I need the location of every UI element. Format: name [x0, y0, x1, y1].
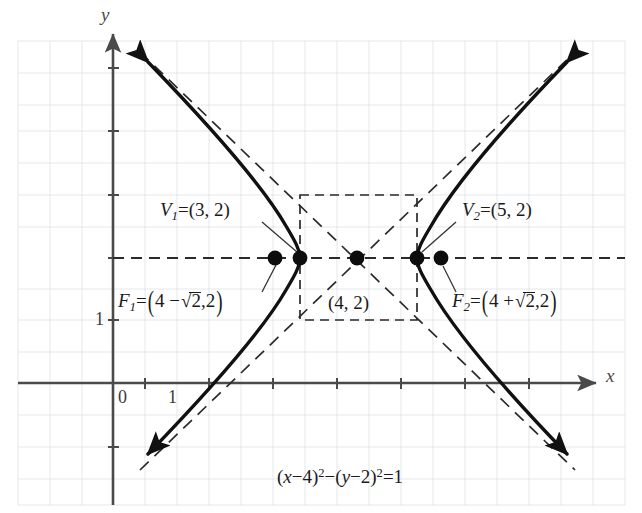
f1-close-paren: ) — [216, 286, 222, 315]
v2-coords: (5, 2) — [491, 199, 532, 220]
point-f2 — [434, 251, 449, 266]
focus-f1-label: F1=(4 −√2,2) — [118, 291, 224, 314]
vertex-v1-label: V1=(3, 2) — [160, 200, 230, 223]
f1-lead: 4 − — [155, 290, 180, 311]
f2-close-paren: ) — [550, 286, 556, 315]
leader-f1 — [262, 265, 276, 292]
f1-equals: = — [136, 290, 147, 311]
vertex-v2-label: V2=(5, 2) — [462, 200, 532, 223]
eq-lhs-op: − — [292, 466, 303, 487]
f1-name: F — [118, 290, 130, 311]
f2-lead: 4 + — [489, 290, 514, 311]
v1-coords: (3, 2) — [189, 199, 230, 220]
grid-minor — [18, 41, 625, 505]
point-v2 — [410, 251, 425, 266]
eq-rhs-num: 2) — [361, 466, 377, 487]
v1-equals: = — [178, 199, 189, 220]
y-axis-label: y — [101, 5, 109, 24]
eq-lhs-var: x — [283, 466, 291, 487]
f1-sqrt: √2 — [180, 291, 201, 310]
point-v1 — [293, 251, 308, 266]
y-tick-label-1: 1 — [95, 310, 104, 328]
f2-sqrt: √2 — [514, 291, 535, 310]
graph-canvas — [0, 0, 642, 513]
eq-lhs-num: 4) — [302, 466, 318, 487]
f2-equals: = — [470, 290, 481, 311]
f2-tail: ,2 — [535, 290, 549, 311]
eq-equals: = — [383, 466, 394, 487]
leader-f2 — [443, 266, 456, 292]
equation-label: (x−4)2−(y−2)2=1 — [277, 467, 403, 486]
eq-rhs-var: y — [342, 466, 350, 487]
eq-rhs-op: − — [350, 466, 361, 487]
hyperbola-figure: y x 0 1 1 V1=(3, 2) V2=(5, 2) F1=(4 −√2,… — [0, 0, 642, 513]
f2-sqrt-bar — [523, 292, 535, 293]
v1-name: V — [160, 199, 172, 220]
point-f1 — [268, 251, 283, 266]
x-tick-label-1: 1 — [168, 388, 177, 406]
f1-sqrt-bar — [189, 292, 201, 293]
f2-name: F — [452, 290, 464, 311]
f1-tail: ,2 — [201, 290, 215, 311]
eq-result: 1 — [394, 466, 404, 487]
origin-label: 0 — [118, 388, 127, 406]
f1-open-paren: ( — [148, 286, 154, 315]
center-label: (4, 2) — [328, 293, 369, 312]
x-axis-label: x — [606, 366, 614, 385]
point-center — [350, 251, 365, 266]
plotted-points — [268, 251, 449, 266]
f2-open-paren: ( — [482, 286, 488, 315]
focus-f2-label: F2=(4 +√2,2) — [452, 291, 558, 314]
v2-name: V — [462, 199, 474, 220]
v2-equals: = — [480, 199, 491, 220]
eq-mid-op: − — [325, 466, 336, 487]
leader-v2 — [422, 222, 456, 252]
